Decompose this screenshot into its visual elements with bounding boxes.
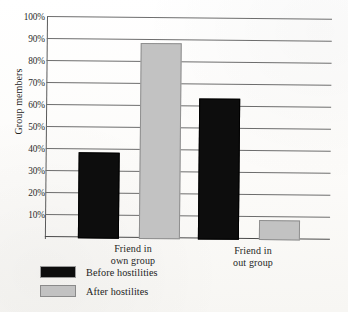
- y-tick-label: 90%: [1, 34, 45, 44]
- legend-swatch-before-icon: [40, 266, 76, 278]
- plot-area-wrapper: [45, 16, 332, 243]
- bar-after-hostilites-out-group[interactable]: [259, 220, 300, 240]
- bar-before-hostilities-out-group[interactable]: [198, 98, 240, 239]
- legend-item-before-hostilities[interactable]: Before hostilities: [40, 264, 250, 280]
- chart-figure: Group members 100% 90% 80% 70% 60% 50% 4…: [0, 0, 348, 312]
- y-tick-label: 100%: [1, 12, 45, 22]
- y-tick-label: 30%: [1, 166, 45, 176]
- y-tick-label: 80%: [1, 56, 45, 66]
- legend-label-before-hostilities: Before hostilities: [86, 267, 158, 278]
- chart-legend: Before hostilities After hostilites: [40, 264, 250, 302]
- y-tick-label: 20%: [1, 188, 45, 198]
- legend-swatch-after-icon: [40, 285, 76, 297]
- legend-item-after-hostilites[interactable]: After hostilites: [40, 283, 250, 299]
- legend-label-after-hostilites: After hostilites: [86, 286, 148, 297]
- bar-before-hostilities-own-group[interactable]: [78, 152, 120, 238]
- bar-after-hostilites-own-group[interactable]: [139, 43, 182, 239]
- bars-layer: [46, 16, 332, 241]
- y-tick-label: 60%: [1, 100, 45, 110]
- y-tick-label: 40%: [1, 144, 45, 154]
- plot-area: [45, 16, 332, 241]
- y-tick-label: 70%: [1, 78, 45, 88]
- y-axis-tick-labels: 100% 90% 80% 70% 60% 50% 40% 30% 20% 10%: [0, 16, 45, 240]
- y-tick-label: 50%: [1, 122, 45, 132]
- y-tick-label: 10%: [1, 210, 45, 220]
